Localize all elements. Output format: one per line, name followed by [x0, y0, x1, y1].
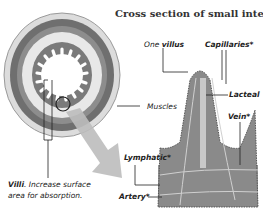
label-lacteal: Lacteal: [229, 90, 260, 99]
label-villus-bold: villus: [162, 40, 184, 49]
label-villi: Villi. Increase surface: [8, 180, 91, 189]
label-muscles: Muscles: [147, 102, 177, 111]
label-artery: Artery*: [119, 192, 150, 201]
label-one: One: [144, 40, 159, 49]
label-villi-bold: Villi: [8, 180, 24, 189]
label-villi-desc-1: . Increase surface: [24, 180, 91, 189]
label-villus: One villus: [144, 40, 184, 49]
label-villi-desc-2: area for absorption.: [8, 191, 82, 200]
cross-section: [4, 13, 120, 137]
diagram-title: Cross section of small intestine: [115, 8, 263, 19]
label-vein: Vein*: [228, 112, 250, 121]
label-lymphatic: Lymphatic*: [124, 153, 171, 162]
label-capillaries: Capillaries*: [205, 40, 253, 49]
